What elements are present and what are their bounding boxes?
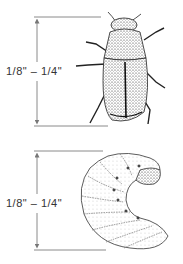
larva-size-label: 1/8" – 1/4" (6, 196, 62, 210)
grub-icon (81, 153, 168, 248)
adult-size-label: 1/8" – 1/4" (6, 64, 62, 78)
illustration-canvas (0, 0, 183, 264)
beetle-icon (76, 12, 165, 124)
